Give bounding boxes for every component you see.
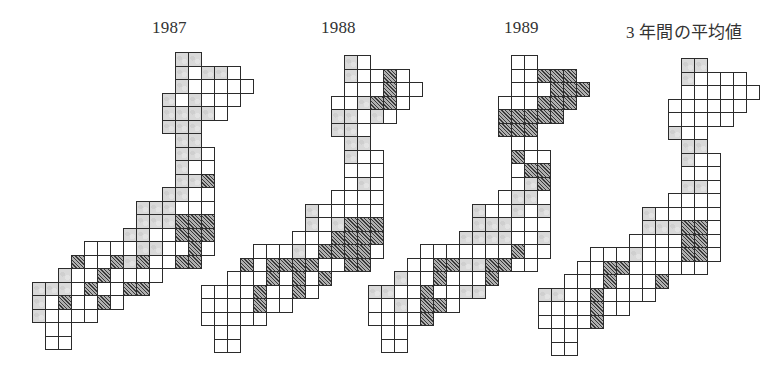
hatched-cell (344, 244, 358, 259)
white-cell (84, 255, 98, 270)
white-cell (370, 190, 384, 205)
hatched-cell (550, 82, 564, 97)
gray-cell (188, 106, 202, 121)
white-cell (370, 69, 384, 84)
gray-cell (175, 133, 189, 148)
white-cell (331, 258, 345, 273)
white-cell (446, 271, 460, 286)
white-cell (357, 150, 371, 165)
gray-cell (694, 180, 708, 195)
hatched-cell (603, 274, 617, 289)
white-cell (537, 150, 551, 165)
gray-cell (537, 204, 551, 219)
white-cell (201, 312, 215, 327)
white-cell (292, 231, 306, 246)
gray-cell (344, 136, 358, 151)
white-cell (201, 79, 215, 94)
hatched-cell (563, 82, 577, 97)
gray-cell (136, 241, 150, 256)
hatched-cell (266, 258, 280, 273)
gray-cell (331, 109, 345, 124)
white-cell (368, 298, 382, 313)
white-cell (97, 255, 111, 270)
white-cell (188, 187, 202, 202)
white-cell (110, 295, 124, 310)
white-cell (694, 166, 708, 181)
gray-cell (201, 106, 215, 121)
white-cell (357, 163, 371, 178)
white-cell (227, 298, 241, 313)
white-cell (420, 271, 434, 286)
japan-grid-map-figure: 1987 1988 1989 3 年間の平均値 (0, 0, 782, 376)
white-cell (681, 166, 695, 181)
gray-cell (681, 72, 695, 87)
hatched-cell (485, 271, 499, 286)
white-cell (201, 160, 215, 175)
hatched-cell (511, 123, 525, 138)
hatched-cell (681, 234, 695, 249)
white-cell (681, 112, 695, 127)
white-cell (511, 96, 525, 111)
white-cell (381, 339, 395, 354)
hatched-cell (370, 231, 384, 246)
white-cell (655, 207, 669, 222)
gray-cell (394, 271, 408, 286)
white-cell (668, 193, 682, 208)
white-cell (538, 315, 552, 330)
white-cell (433, 285, 447, 300)
white-cell (564, 288, 578, 303)
white-cell (227, 285, 241, 300)
white-cell (433, 244, 447, 259)
white-cell (551, 342, 565, 357)
gray-cell (394, 298, 408, 313)
hatched-cell (305, 258, 319, 273)
white-cell (227, 66, 241, 81)
gray-cell (344, 150, 358, 165)
gray-cell (551, 288, 565, 303)
white-cell (409, 82, 423, 97)
hatched-cell (188, 214, 202, 229)
hatched-cell (357, 244, 371, 259)
white-cell (407, 258, 421, 273)
hatched-cell (537, 96, 551, 111)
white-cell (344, 82, 358, 97)
hatched-cell (550, 109, 564, 124)
hatched-cell (420, 312, 434, 327)
hatched-cell (201, 174, 215, 189)
white-cell (344, 190, 358, 205)
white-cell (97, 241, 111, 256)
hatched-cell (201, 214, 215, 229)
white-cell (524, 231, 538, 246)
white-cell (266, 244, 280, 259)
white-cell (707, 166, 721, 181)
white-cell (707, 153, 721, 168)
white-cell (201, 187, 215, 202)
white-cell (459, 244, 473, 259)
hatched-cell (681, 220, 695, 235)
gray-cell (175, 147, 189, 162)
white-cell (511, 231, 525, 246)
white-cell (524, 82, 538, 97)
white-cell (357, 55, 371, 70)
hatched-cell (694, 220, 708, 235)
white-cell (681, 99, 695, 114)
hatched-cell (357, 231, 371, 246)
gray-cell (694, 58, 708, 73)
white-cell (214, 106, 228, 121)
white-cell (214, 79, 228, 94)
hatched-cell (563, 96, 577, 111)
white-cell (720, 99, 734, 114)
hatched-cell (188, 255, 202, 270)
gray-cell (136, 228, 150, 243)
hatched-cell (292, 271, 306, 286)
white-cell (564, 315, 578, 330)
hatched-cell (524, 109, 538, 124)
white-cell (616, 247, 630, 262)
white-cell (253, 258, 267, 273)
white-cell (344, 177, 358, 192)
white-cell (511, 69, 525, 84)
hatched-cell (550, 69, 564, 84)
gray-cell (292, 244, 306, 259)
white-cell (45, 309, 59, 324)
white-cell (485, 204, 499, 219)
